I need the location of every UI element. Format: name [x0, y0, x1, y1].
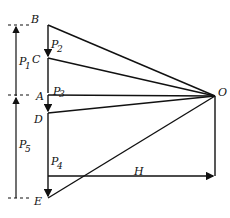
label-p4-sub: 4	[56, 161, 63, 171]
label-c: C	[32, 53, 41, 66]
h-construction	[48, 96, 215, 176]
ray-b-o	[48, 25, 215, 96]
pole-rays	[48, 25, 215, 198]
label-p3-sub: 3	[59, 89, 65, 99]
label-o: O	[218, 86, 227, 99]
label-h: H	[133, 165, 144, 178]
label-a: A	[35, 90, 44, 103]
label-p5-sub: 5	[25, 144, 31, 154]
label-e: E	[33, 195, 42, 208]
label-p2-sub: 2	[56, 44, 63, 54]
dimension-line	[8, 25, 32, 198]
ray-c-o	[48, 58, 215, 96]
ray-d-o	[48, 96, 215, 113]
label-b: B	[30, 13, 39, 26]
ray-e-o	[48, 96, 215, 198]
ray-a-o	[48, 95, 215, 96]
label-p1-sub: 1	[25, 61, 31, 71]
force-diagram: B C A D E O P 1 P 2 P 3 P 4 P 5 H	[0, 0, 230, 218]
label-d: D	[33, 113, 43, 126]
